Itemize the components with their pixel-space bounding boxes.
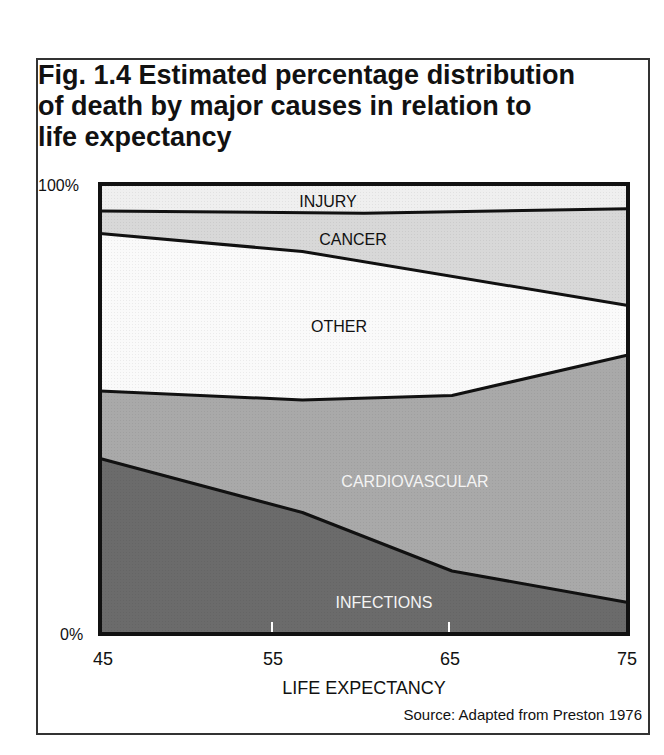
stacked-area-chart: 100% 0% 45 55 65 75 LIFE EXPECTANCY INJU… (0, 0, 664, 755)
y-tick-100: 100% (38, 177, 79, 194)
label-other: OTHER (311, 318, 367, 335)
label-infections: INFECTIONS (336, 594, 433, 611)
source-note: Source: Adapted from Preston 1976 (404, 706, 642, 723)
y-tick-0: 0% (60, 626, 83, 643)
label-cancer: CANCER (319, 231, 387, 248)
plot-areas (100, 184, 628, 634)
label-cardiovascular: CARDIOVASCULAR (341, 473, 488, 490)
x-tick-45: 45 (93, 649, 113, 669)
x-axis-label: LIFE EXPECTANCY (282, 678, 446, 698)
label-injury: INJURY (299, 193, 357, 210)
x-tick-75: 75 (617, 649, 637, 669)
x-tick-65: 65 (440, 649, 460, 669)
x-tick-55: 55 (263, 649, 283, 669)
